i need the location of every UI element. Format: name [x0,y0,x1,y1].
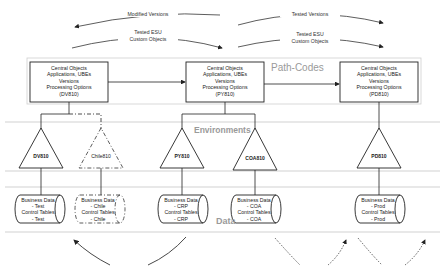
label-tested-esu-right-1: Tested ESU [280,31,340,37]
label-tested-esu-left-1: Tested ESU [118,29,178,35]
db-text-test: Business Data - Test Control Tables - Te… [12,197,64,222]
env-label-coa810: COA810 [235,155,275,161]
env-label-pd810: PD810 [359,153,399,159]
path-code-text-dv810: Central Objects Applications, UBEs Versi… [30,65,108,97]
label-tested-esu-left-2: Custom Objects [118,36,178,42]
db-text-crp: Business Data - CRP Control Tables - CRP [155,197,207,222]
db-text-prod: Business Data - Prod Control Tables - Pr… [352,197,404,222]
env-label-py810: PY810 [162,153,202,159]
db-text-coa: Business Data - COA Control Tables - COA [228,197,280,222]
label-tested-versions: Tested Versions [280,11,340,17]
diagram-canvas [0,0,447,270]
label-modified-versions: Modified Versions [118,11,178,17]
env-label-chile810: Chile810 [81,153,121,159]
db-text-chile: Business Data - Chile Control Tables - C… [72,197,124,222]
label-tested-esu-right-2: Custom Objects [280,38,340,44]
band-label-environments: Environments [194,125,251,135]
env-label-dv810: DV810 [21,153,61,159]
env-triangle-pd810 [357,128,401,168]
path-code-text-py810: Central Objects Applications, UBEs Versi… [186,65,264,97]
band-label-path-codes: Path-Codes [271,62,324,73]
env-triangle-chile810 [79,128,123,168]
env-triangle-dv810 [19,128,63,168]
path-code-text-pd810: Central Objects Applications, UBEs Versi… [340,65,418,97]
